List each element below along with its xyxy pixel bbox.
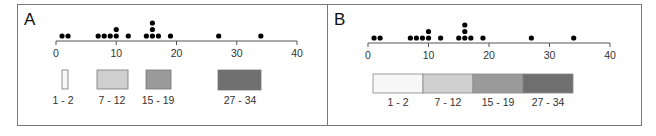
- legend-swatch: [62, 70, 68, 89]
- data-point: [258, 33, 263, 38]
- x-tick-label: 0: [53, 47, 59, 59]
- data-point: [462, 35, 467, 40]
- legend-label: 1 - 2: [387, 96, 408, 108]
- data-point: [114, 33, 119, 38]
- legend-segment: [523, 74, 573, 93]
- legend-label: 7 - 12: [99, 94, 126, 106]
- data-point: [438, 35, 443, 40]
- data-point: [414, 35, 419, 40]
- data-point: [102, 33, 107, 38]
- data-point: [150, 20, 155, 25]
- data-point: [426, 29, 431, 34]
- legend-swatch: [218, 70, 261, 90]
- data-point: [462, 29, 467, 34]
- data-point: [65, 33, 70, 38]
- legend-label: 27 - 34: [224, 94, 257, 106]
- data-point: [408, 35, 413, 40]
- legend-segment: [473, 74, 523, 93]
- x-tick-label: 40: [291, 47, 303, 59]
- x-tick-label: 20: [483, 49, 495, 61]
- data-point: [108, 33, 113, 38]
- data-point: [456, 35, 461, 40]
- legend-segment: [423, 74, 473, 93]
- x-tick-label: 10: [423, 49, 435, 61]
- data-point: [150, 27, 155, 32]
- data-point: [114, 27, 119, 32]
- data-point: [371, 35, 376, 40]
- data-point: [59, 33, 64, 38]
- data-point: [168, 33, 173, 38]
- legend-swatch: [146, 70, 171, 89]
- legend-label: 15 - 19: [482, 96, 515, 108]
- legend-label: 27 - 34: [532, 96, 565, 108]
- data-point: [156, 33, 161, 38]
- legend-label: 1 - 2: [52, 94, 73, 106]
- data-point: [468, 35, 473, 40]
- data-point: [378, 35, 383, 40]
- data-point: [216, 33, 221, 38]
- data-point: [150, 33, 155, 38]
- legend-segment: [373, 74, 423, 93]
- data-point: [529, 35, 534, 40]
- legend-swatch: [97, 70, 128, 89]
- data-point: [144, 33, 149, 38]
- x-tick-label: 10: [110, 47, 122, 59]
- data-point: [96, 33, 101, 38]
- x-tick-label: 0: [365, 49, 371, 61]
- x-tick-label: 30: [544, 49, 556, 61]
- data-point: [426, 35, 431, 40]
- legend-label: 7 - 12: [435, 96, 462, 108]
- data-point: [462, 22, 467, 27]
- data-point: [480, 35, 485, 40]
- legend-label: 15 - 19: [142, 94, 175, 106]
- data-point: [126, 33, 131, 38]
- x-tick-label: 40: [604, 49, 616, 61]
- x-tick-label: 20: [171, 47, 183, 59]
- data-point: [571, 35, 576, 40]
- dot-plot-figure: 0102030401 - 27 - 1215 - 1927 - 34010203…: [0, 0, 656, 136]
- data-point: [420, 35, 425, 40]
- x-tick-label: 30: [231, 47, 243, 59]
